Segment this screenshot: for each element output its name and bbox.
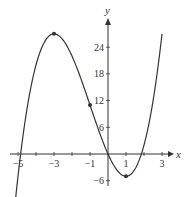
marked-point [52, 32, 56, 36]
y-tick-label: 6 [99, 122, 104, 133]
y-axis-arrow-icon [105, 18, 111, 25]
marked-point [88, 103, 92, 107]
cubic-function-chart: −5−3−113−66121824 x y [0, 0, 190, 197]
x-tick-label: −1 [85, 158, 96, 169]
tick-labels: −5−3−113−66121824 [13, 42, 165, 187]
y-tick-label: 24 [94, 42, 104, 53]
x-tick-label: −5 [13, 158, 24, 169]
marked-point [124, 174, 128, 178]
x-tick-label: 3 [160, 158, 165, 169]
x-tick-label: −3 [49, 158, 60, 169]
curve-line [13, 34, 162, 197]
marked-points [52, 32, 128, 178]
y-tick-label: 12 [94, 95, 104, 106]
y-tick-label: −6 [93, 175, 104, 186]
x-axis-arrow-icon [168, 151, 174, 157]
y-axis-label: y [104, 4, 110, 16]
y-tick-label: 18 [94, 68, 104, 79]
x-tick-label: 1 [124, 158, 129, 169]
x-axis-label: x [175, 148, 181, 160]
